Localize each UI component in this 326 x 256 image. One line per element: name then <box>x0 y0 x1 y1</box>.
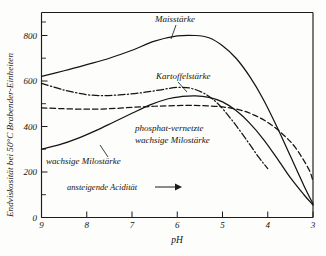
chart-figure: Endviskosität bei 50°C Brabender-Einheit… <box>0 0 326 256</box>
data-series-group <box>42 35 314 205</box>
series-label-phosphat-line1: phosphat-vernetzte <box>134 123 203 133</box>
x-tick-label: 5 <box>220 220 225 230</box>
line-chart: Endviskosität bei 50°C Brabender-Einheit… <box>0 0 326 256</box>
series-labels: Maisstärke Kartoffelstärke phosphat-vern… <box>46 14 211 166</box>
x-tick-label: 8 <box>85 220 90 230</box>
x-axis-tick-labels: 9 8 7 6 5 4 3 <box>39 220 316 230</box>
x-tick-label: 6 <box>175 220 180 230</box>
x-tick-label: 9 <box>39 220 44 230</box>
x-tick-label: 7 <box>130 220 135 230</box>
y-axis-ticks <box>42 22 48 218</box>
series-label-phosphat-line2: wachsige Milostärke <box>135 135 210 145</box>
y-tick-label: 600 <box>24 76 38 86</box>
y-tick-label: 0 <box>33 213 38 223</box>
y-axis-title: Endviskosität bei 50°C Brabender-Einheit… <box>5 53 15 218</box>
y-tick-label: 200 <box>24 167 38 177</box>
acidity-annotation: ansteigende Acidität <box>67 182 182 192</box>
x-axis-ticks <box>42 212 314 218</box>
arrow-head-icon <box>175 184 182 191</box>
x-tick-label: 4 <box>266 220 271 230</box>
y-tick-label: 400 <box>24 122 38 132</box>
series-label-wachsige-milostaerke: wachsige Milostärke <box>46 156 121 166</box>
annotation-text-ansteigende-aciditaet: ansteigende Acidität <box>67 182 138 192</box>
series-label-maisstaerke: Maisstärke <box>154 14 195 24</box>
y-tick-label: 800 <box>24 31 38 41</box>
series-label-kartoffelstaerke: Kartoffelstärke <box>155 71 211 81</box>
x-tick-label: 3 <box>310 220 316 230</box>
series-line-maisstaerke <box>42 35 314 204</box>
y-axis-tick-labels: 0 200 400 600 800 <box>24 31 38 223</box>
x-axis-title: pH <box>170 235 184 245</box>
